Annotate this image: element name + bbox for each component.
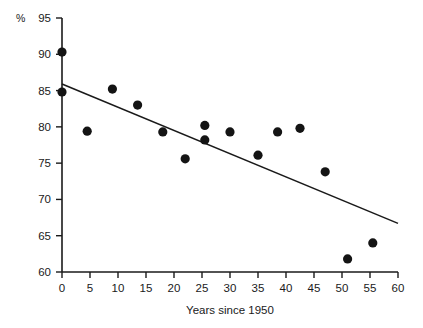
data-point [200, 121, 209, 130]
x-tick-label: 30 [224, 282, 237, 294]
y-tick-label: 75 [38, 157, 51, 169]
x-tick-label: 15 [140, 282, 153, 294]
x-tick-label: 20 [168, 282, 181, 294]
data-point [321, 167, 330, 176]
x-tick-label: 0 [59, 282, 65, 294]
x-tick-label: 25 [196, 282, 209, 294]
y-tick-label: 70 [38, 193, 51, 205]
data-point [57, 48, 66, 57]
x-tick-label: 60 [392, 282, 405, 294]
x-tick-label: 55 [364, 282, 377, 294]
x-axis-ticks: 051015202530354045505560 [59, 272, 405, 294]
data-point [83, 127, 92, 136]
x-tick-label: 50 [336, 282, 349, 294]
y-tick-label: 65 [38, 230, 51, 242]
x-tick-label: 40 [280, 282, 293, 294]
y-tick-label: 85 [38, 85, 51, 97]
data-point [295, 124, 304, 133]
y-tick-label: 90 [38, 48, 51, 60]
x-tick-label: 5 [87, 282, 93, 294]
data-point [108, 85, 117, 94]
data-point [181, 154, 190, 163]
y-tick-label: 60 [38, 266, 51, 278]
regression-line [62, 84, 398, 223]
x-tick-label: 35 [252, 282, 265, 294]
data-point [225, 127, 234, 136]
x-tick-label: 10 [112, 282, 125, 294]
data-point [57, 87, 66, 96]
data-point [158, 127, 167, 136]
data-point [368, 238, 377, 247]
x-tick-label: 45 [308, 282, 321, 294]
chart-canvas: 6065707580859095 05101520253035404550556… [0, 0, 423, 328]
scatter-plot-figure: 6065707580859095 05101520253035404550556… [0, 0, 423, 328]
data-point [253, 151, 262, 160]
data-point [343, 254, 352, 263]
trend-line-group [62, 84, 398, 223]
data-point [200, 135, 209, 144]
data-points-group [57, 48, 377, 264]
data-point [133, 100, 142, 109]
data-point [273, 127, 282, 136]
y-axis-unit-label: % [16, 12, 25, 24]
x-axis-title: Years since 1950 [186, 304, 274, 316]
y-tick-label: 80 [38, 121, 51, 133]
axes [62, 18, 398, 272]
y-tick-label: 95 [38, 12, 51, 24]
